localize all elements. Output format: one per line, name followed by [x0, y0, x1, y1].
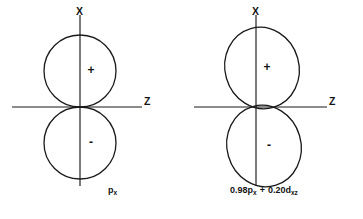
x-axis-label: X: [76, 6, 83, 17]
hybrid-orbital-caption: 0.98px+0.20dxz: [230, 186, 298, 195]
panel-hybrid-orbital: X Z + - 0.98px+0.20dxz: [182, 0, 363, 219]
caption-coefficient-2: 0.20: [268, 185, 286, 195]
z-axis-label: Z: [329, 96, 336, 107]
panel-p-orbital: X Z + - px: [0, 0, 182, 219]
caption-subscript-xz: xz: [291, 189, 298, 196]
orbital-figure: X Z + - px X Z + - 0.98px+0.20dxz: [0, 0, 363, 219]
caption-operator: +: [257, 185, 268, 195]
caption-coefficient-1: 0.98: [230, 185, 248, 195]
upper-lobe-sign: +: [261, 61, 273, 73]
lower-lobe-sign: -: [263, 139, 275, 151]
x-axis-label: X: [252, 6, 259, 17]
caption-symbol: p: [108, 185, 114, 195]
p-orbital-caption: px: [108, 186, 117, 195]
p-orbital-drawing: [0, 0, 182, 219]
lower-lobe-sign: -: [85, 136, 97, 148]
caption-subscript: x: [114, 189, 118, 196]
upper-lobe-sign: +: [85, 64, 97, 76]
caption-subscript-x: x: [253, 189, 257, 196]
z-axis-label: Z: [144, 96, 151, 107]
